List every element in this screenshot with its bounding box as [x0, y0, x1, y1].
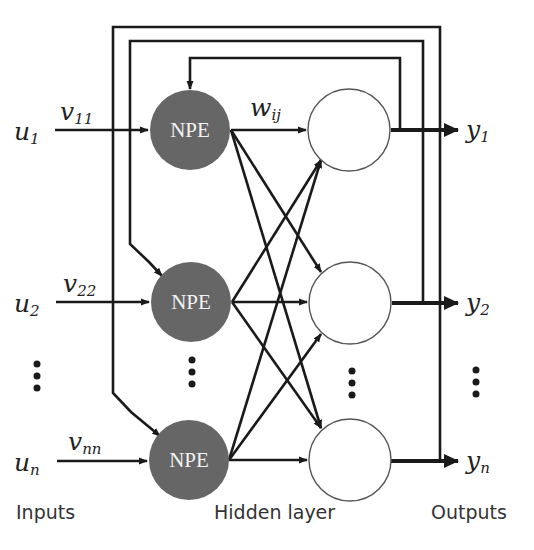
caption-inputs: Inputs — [16, 501, 75, 523]
input-label-2: u2 — [14, 289, 40, 320]
output-label-n: yn — [465, 446, 490, 477]
hidden-node-1 — [308, 89, 390, 171]
ellipsis-outputs — [473, 367, 480, 398]
hidden-node-n — [309, 419, 391, 501]
npe-node-n: NPE — [149, 420, 229, 500]
hidden-connections — [229, 130, 321, 460]
npe-node-2: NPE — [151, 262, 231, 342]
ellipsis-npe — [189, 357, 196, 388]
npe-label: NPE — [171, 290, 211, 314]
feedback-loop-middle — [130, 41, 423, 303]
hidden-node-2 — [309, 262, 391, 344]
output-label-2: y2 — [465, 288, 490, 319]
weight-label-v11: v11 — [60, 97, 93, 128]
weight-label-v22: v22 — [63, 269, 96, 300]
ellipsis-hidden — [349, 368, 356, 399]
weight-label-wij: wij — [250, 93, 281, 124]
input-label-1: u1 — [14, 117, 40, 148]
npe-label: NPE — [170, 118, 210, 142]
ellipsis-inputs — [34, 361, 41, 392]
caption-hidden-layer: Hidden layer — [214, 501, 335, 523]
caption-outputs: Outputs — [431, 501, 507, 523]
npe-node-1: NPE — [150, 90, 230, 170]
output-arrows — [391, 130, 458, 461]
output-label-1: y1 — [465, 115, 490, 146]
input-label-n: un — [14, 448, 40, 479]
weight-label-vnn: vnn — [68, 427, 101, 458]
npe-label: NPE — [169, 448, 209, 472]
rnn-diagram: NPE NPE NPE u1 u2 un v11 v22 vnn wij y1 … — [0, 0, 534, 550]
